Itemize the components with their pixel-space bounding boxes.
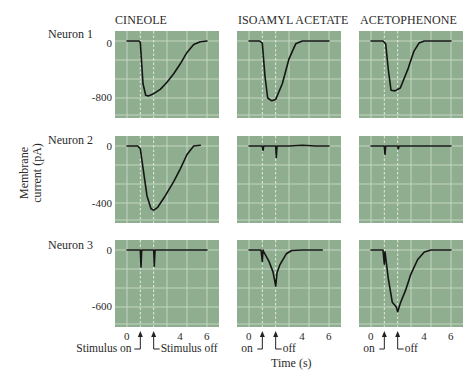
ytick-row1-0: 0 [72, 37, 112, 49]
trace-plot [115, 31, 219, 118]
plot-panel-neuron-2-cineole [115, 136, 219, 223]
trace-plot [115, 240, 219, 327]
plot-panel-neuron-3-isoamyl-acetate [237, 240, 341, 327]
y-axis-label: Membrane current (pA) [18, 128, 44, 218]
stimulus-on-label: on [363, 342, 375, 354]
ytick-row2-0: 0 [72, 140, 112, 152]
ytick-row3-minus600: -600 [72, 300, 112, 312]
plot-panel-neuron-1-acetophenone [359, 31, 463, 118]
trace-plot [237, 136, 341, 223]
column-title-cineole: CINEOLE [115, 13, 167, 28]
ytick-row1-minus800: -800 [72, 91, 112, 103]
plot-panel-neuron-1-isoamyl-acetate [237, 31, 341, 118]
plot-panel-neuron-3-acetophenone [359, 240, 463, 327]
plot-panel-neuron-2-isoamyl-acetate [237, 136, 341, 223]
trace-plot [359, 136, 463, 223]
plot-panel-neuron-2-acetophenone [359, 136, 463, 223]
trace-plot [359, 31, 463, 118]
trace-plot [237, 240, 341, 327]
x-axis-label: Time (s) [271, 356, 312, 371]
stimulus-off-label: off [405, 342, 418, 354]
trace-plot [115, 136, 219, 223]
y-axis-label-line2: current (pA) [31, 128, 44, 218]
column-title-isoamyl-acetate: ISOAMYL ACETATE [238, 13, 348, 28]
ytick-row2-minus400: -400 [72, 197, 112, 209]
plot-panel-neuron-1-cineole [115, 31, 219, 118]
trace-plot [237, 31, 341, 118]
column-title-acetophenone: ACETOPHENONE [360, 13, 457, 28]
plot-panel-neuron-3-cineole [115, 240, 219, 327]
ytick-row3-0: 0 [72, 244, 112, 256]
trace-plot [359, 240, 463, 327]
